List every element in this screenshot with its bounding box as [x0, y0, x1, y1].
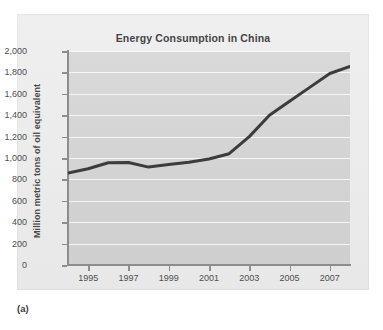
y-axis-tick [62, 179, 67, 181]
y-axis-tick [62, 94, 67, 96]
x-axis-tick [290, 266, 292, 271]
series-polyline [68, 67, 350, 173]
x-axis-tick-label: 1997 [108, 273, 148, 283]
x-axis-tick [169, 266, 171, 271]
y-axis-tick [62, 51, 67, 53]
y-axis-tick-label: 200 [0, 239, 27, 249]
x-axis-tick [88, 266, 90, 271]
y-axis-tick [62, 115, 67, 117]
x-axis-tick [249, 266, 251, 271]
chart-title: Energy Consumption in China [17, 32, 369, 44]
y-axis-tick-label: 1,200 [0, 132, 27, 142]
x-axis-tick-label: 1999 [149, 273, 189, 283]
line-series [68, 51, 350, 265]
y-axis-tick [62, 222, 67, 224]
figure-card: Energy Consumption in China Million metr… [17, 14, 369, 290]
y-axis-tick-label: 600 [0, 196, 27, 206]
x-axis-tick [128, 266, 130, 271]
x-axis-tick-label: 2001 [189, 273, 229, 283]
y-axis-tick [62, 158, 67, 160]
y-axis-tick [62, 265, 67, 267]
y-axis-tick-label: 1,600 [0, 89, 27, 99]
y-axis-tick [62, 137, 67, 139]
x-axis-tick [330, 266, 332, 271]
x-axis-tick-label: 1995 [68, 273, 108, 283]
x-axis-tick-label: 2005 [270, 273, 310, 283]
x-axis-tick-label: 2007 [310, 273, 350, 283]
x-axis-tick-label: 2003 [229, 273, 269, 283]
y-axis-tick [62, 72, 67, 74]
y-axis-tick-label: 1,800 [0, 67, 27, 77]
y-axis-tick [62, 201, 67, 203]
y-axis-tick-label: 400 [0, 217, 27, 227]
y-axis-tick-label: 0 [0, 260, 27, 270]
y-axis-tick-label: 1,000 [0, 153, 27, 163]
y-axis-tick-label: 2,000 [0, 46, 27, 56]
figure-caption: (a) [17, 303, 29, 314]
y-axis-tick-label: 800 [0, 174, 27, 184]
y-axis-tick [62, 244, 67, 246]
y-axis-title: Million metric tons of oil equivalent [30, 52, 44, 270]
y-axis-tick-label: 1,400 [0, 110, 27, 120]
x-axis-tick [209, 266, 211, 271]
